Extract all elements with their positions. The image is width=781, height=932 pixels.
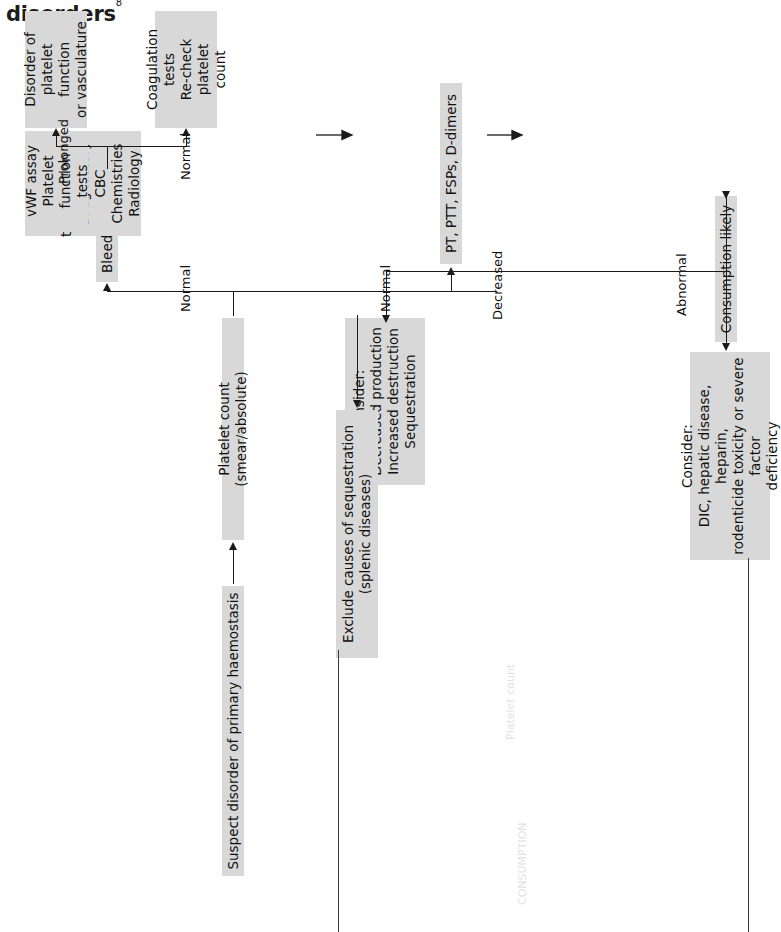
edge-n3-n5-arrowhead (182, 128, 190, 136)
page-rule-lower (748, 558, 749, 932)
edge-n1-n2-arrowhead (229, 542, 237, 550)
edge-n9-n10 (357, 315, 358, 399)
edge-n3-n4-arrowhead (52, 128, 60, 136)
ghost-text-line1: CONSUMPTION (516, 822, 529, 905)
edge-n8-abnormal-run (726, 194, 727, 272)
edge-n8-trunk (386, 271, 726, 272)
edge-n3-prolonged (56, 135, 57, 147)
node-coagulation-tests[interactable]: Coagulation tests Re-check platelet coun… (155, 11, 217, 128)
page-rule-upper (338, 650, 339, 932)
node-consider-dic[interactable]: Consider: DIC, hepatic disease, heparin,… (690, 352, 770, 560)
ghost-text-line2: Platelet count (504, 664, 517, 740)
node-platelet-count[interactable]: Platelet count (smear/absolute) (222, 318, 244, 540)
edge-n2-trunk (107, 291, 497, 292)
node-pt-ptt-fsps-ddimers[interactable]: PT, PTT, FSPs, D-dimers (440, 83, 462, 264)
edge-n11-n12 (726, 271, 727, 343)
edge-n11-n12-arrowhead (722, 343, 730, 351)
edge-label-abnormal: Abnormal (674, 253, 689, 316)
edge-n3-trunk (56, 146, 186, 147)
edge-n3-stem (107, 147, 108, 169)
edge-n9-n10-arrowhead (353, 400, 361, 408)
edge-n1-n2 (233, 550, 234, 584)
edge-n8-normal (386, 271, 387, 315)
node-suspect-disorder[interactable]: Suspect disorder of primary haemostasis (222, 586, 244, 876)
edge-n2-stem (233, 291, 234, 316)
edge-label-decreased: Decreased (490, 251, 505, 320)
edge-n2-n3-arrowhead (103, 283, 111, 291)
edge-label-normal-platelet: Normal (178, 265, 193, 312)
edge-n2-n8 (451, 274, 452, 292)
edge-n8-n9-arrowhead (382, 315, 390, 323)
node-exclude-sequestration[interactable]: Exclude causes of sequestration (splenic… (336, 410, 378, 658)
edge-n3-normal (186, 135, 187, 147)
node-disorder-platelet-function[interactable]: Disorder of platelet function or vascula… (25, 11, 87, 128)
